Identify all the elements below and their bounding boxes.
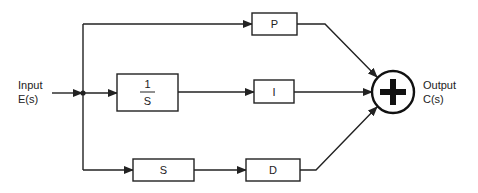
input-signal-label: E(s) [18,93,38,105]
p-block-label: P [271,18,278,30]
d-block-label: D [269,164,277,176]
p-block: P [252,13,297,35]
output-label: Output [423,79,456,91]
summing-junction [372,71,414,113]
integrator-denominator: S [144,95,151,107]
integrator-block: 1 S [117,74,178,111]
input-label: Input [18,79,42,91]
d-block: D [246,159,300,181]
d-to-sum-wire [300,107,377,170]
i-block-label: I [272,86,275,98]
i-block: I [254,80,294,103]
p-to-sum-wire [297,24,377,77]
pid-block-diagram: Input E(s) P 1 S I S D Output [0,0,478,193]
integrator-numerator: 1 [144,78,150,90]
s-block-label: S [160,164,167,176]
s-block: S [133,159,194,181]
output-signal-label: C(s) [423,93,444,105]
